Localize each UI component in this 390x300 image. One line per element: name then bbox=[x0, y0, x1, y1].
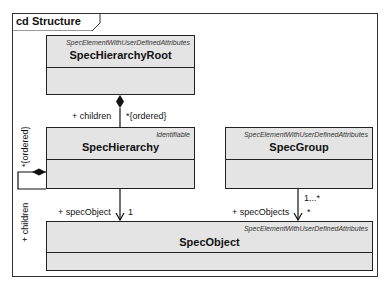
multiplicity-label: *{ordered} bbox=[20, 126, 30, 167]
association-lines bbox=[0, 0, 390, 300]
multiplicity-label: *{ordered} bbox=[126, 111, 167, 121]
multiplicity-label: 1 bbox=[128, 207, 133, 217]
multiplicity-label: 1...* bbox=[304, 193, 320, 203]
composition-diamond-icon bbox=[32, 169, 46, 176]
multiplicity-label: * bbox=[307, 207, 311, 217]
role-label: + specObject bbox=[58, 207, 111, 217]
role-label: + specObjects bbox=[232, 207, 289, 217]
composition-diamond-icon bbox=[116, 95, 124, 108]
role-label: + children bbox=[72, 111, 111, 121]
role-label: + children bbox=[20, 203, 30, 242]
